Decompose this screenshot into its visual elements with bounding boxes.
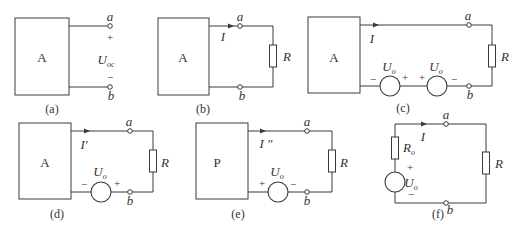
- resistor-Ro: [392, 137, 399, 159]
- terminal-a-label: a: [304, 114, 311, 129]
- resistor-label: R: [494, 156, 503, 171]
- thevenin-proof-diagram: A a b + Uoc − (a) A R I a b (b) A: [0, 0, 519, 232]
- terminal-b-label: b: [239, 88, 246, 103]
- panel-a: A a b + Uoc − (a): [15, 9, 115, 116]
- terminal-a: [238, 24, 243, 29]
- current-arrow-icon: [421, 122, 427, 127]
- caption-a: (a): [45, 102, 58, 116]
- voltage-source-icon: [268, 182, 288, 202]
- current-label: I ″: [259, 136, 274, 151]
- source-plus-sign: +: [407, 161, 413, 173]
- current-arrow-icon: [84, 129, 90, 134]
- source-left-sign: −: [81, 178, 87, 190]
- terminal-a-label: a: [465, 8, 472, 23]
- panel-f: Ro + Uo − R I a b (f): [385, 107, 503, 221]
- minus-sign: −: [107, 71, 113, 83]
- source-2-left-sign: +: [419, 71, 425, 83]
- resistor-label: R: [160, 155, 169, 170]
- source-left-sign: +: [259, 177, 265, 189]
- source-right-sign: +: [114, 177, 120, 189]
- current-label: I′: [79, 137, 87, 152]
- resistor-R: [150, 150, 157, 172]
- caption-c: (c): [396, 101, 409, 115]
- source-1-right-sign: +: [402, 71, 408, 83]
- internal-resistance-label: Ro: [402, 140, 415, 157]
- network-label: A: [329, 50, 339, 65]
- current-arrow-icon: [228, 24, 234, 29]
- terminal-a-label: a: [126, 114, 133, 129]
- source-1-left-sign: −: [370, 73, 376, 85]
- resistor-label: R: [339, 155, 348, 170]
- terminal-b-label: b: [447, 202, 454, 217]
- current-arrow-icon: [260, 129, 266, 134]
- network-label: A: [178, 50, 188, 65]
- source-label: Uo: [270, 164, 283, 181]
- plus-sign: +: [107, 31, 113, 43]
- terminal-a: [108, 24, 113, 29]
- source-2-label: Uo: [429, 59, 442, 76]
- terminal-b-label: b: [127, 193, 134, 208]
- terminal-a: [128, 129, 133, 134]
- source-right-sign: −: [290, 178, 296, 190]
- resistor-label: R: [500, 49, 509, 64]
- source-1-label: Uo: [382, 59, 395, 76]
- current-label: I: [369, 31, 375, 46]
- terminal-a-label: a: [443, 107, 450, 122]
- caption-f: (f): [432, 207, 444, 221]
- caption-e: (e): [231, 207, 244, 221]
- voltage-source-icon: [385, 172, 405, 192]
- resistor-label: R: [282, 49, 291, 64]
- source-label: Uo: [93, 164, 106, 181]
- voltage-label: Uoc: [98, 52, 115, 69]
- terminal-b-label: b: [467, 87, 474, 102]
- current-arrow-icon: [373, 23, 379, 28]
- voltage-source-icon: [91, 182, 111, 202]
- voltage-source-2-icon: [427, 76, 447, 96]
- network-label: P: [213, 155, 220, 170]
- caption-b: (b): [196, 102, 210, 116]
- terminal-a: [444, 122, 449, 127]
- current-label: I: [220, 29, 226, 44]
- network-label: A: [37, 50, 47, 65]
- terminal-b-label: b: [108, 88, 115, 103]
- resistor-R: [483, 152, 490, 174]
- resistor-R: [489, 45, 496, 67]
- voltage-source-1-icon: [380, 76, 400, 96]
- network-label: A: [40, 155, 50, 170]
- resistor-R: [270, 45, 277, 67]
- network-box-e: [196, 123, 248, 199]
- terminal-a: [305, 129, 310, 134]
- panel-b: A R I a b (b): [158, 9, 291, 116]
- source-minus-sign: −: [408, 188, 414, 200]
- terminal-a: [467, 23, 472, 28]
- panel-c: A R I − + Uo + − Uo a b (c): [308, 8, 509, 115]
- panel-d: A R I′ − + Uo a b (d): [19, 114, 169, 221]
- resistor-R: [329, 150, 336, 172]
- panel-e: P R I ″ + − Uo a b (e): [196, 114, 348, 221]
- terminal-b-label: b: [304, 193, 311, 208]
- terminal-a-label: a: [237, 9, 244, 24]
- caption-d: (d): [50, 207, 64, 221]
- source-2-right-sign: −: [451, 73, 457, 85]
- terminal-a-label: a: [107, 9, 114, 24]
- current-label: I: [420, 129, 426, 144]
